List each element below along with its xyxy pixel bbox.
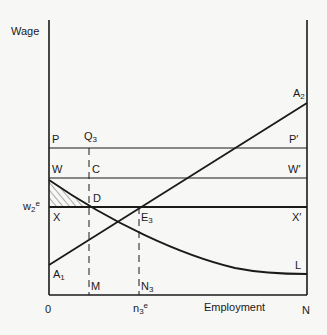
right-axis-label: N <box>302 305 310 316</box>
line-A1-A2 <box>49 103 307 265</box>
label-D: D <box>93 193 101 204</box>
label-C: C <box>92 164 100 175</box>
label-n3e: n3e <box>133 302 148 316</box>
label-E3-sub: 3 <box>148 216 152 225</box>
label-P-prime: P′ <box>289 134 298 145</box>
label-W-prime: W′ <box>288 164 300 175</box>
label-w2e: w2e <box>23 200 40 214</box>
label-N3: N3 <box>141 281 153 294</box>
curve-L <box>49 180 307 274</box>
label-W: W <box>52 164 62 175</box>
label-X: X <box>53 212 60 223</box>
label-E3: E3 <box>141 212 153 225</box>
origin-label: 0 <box>45 304 51 315</box>
label-Q3: Q3 <box>84 131 97 144</box>
label-X-prime: X′ <box>292 212 301 223</box>
label-w2e-base: w <box>23 200 31 212</box>
wage-employment-diagram: Wage P Q3 P′ W C W′ D w2e X E3 X′ A2 A1 … <box>0 0 327 335</box>
diagram-canvas <box>0 0 327 335</box>
label-Q3-sub: 3 <box>93 135 97 144</box>
label-n3e-sup: e <box>144 301 148 310</box>
label-N3-base: N <box>141 280 149 292</box>
label-M: M <box>91 281 100 292</box>
label-w2e-sup: e <box>35 199 39 208</box>
x-axis-label: Employment <box>204 302 265 313</box>
label-A2-sub: 2 <box>300 92 304 101</box>
label-A1: A1 <box>53 269 65 282</box>
label-N3-sub: 3 <box>149 285 153 294</box>
label-A2: A2 <box>293 88 305 101</box>
label-P: P <box>52 134 59 145</box>
y-axis-label: Wage <box>11 26 39 37</box>
label-A1-sub: 1 <box>60 273 64 282</box>
label-Q3-base: Q <box>84 130 93 142</box>
label-L: L <box>295 260 301 271</box>
